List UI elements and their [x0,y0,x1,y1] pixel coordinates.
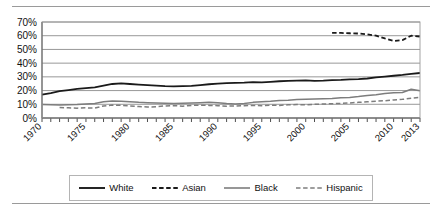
legend-item-asian: Asian [152,183,206,193]
legend-label: Hispanic [326,183,362,193]
svg-text:2010: 2010 [372,121,395,144]
series-line-white [42,73,420,95]
legend-label: Black [254,183,277,193]
svg-text:1990: 1990 [197,121,220,144]
legend-label: White [109,183,133,193]
legend-item-white: White [79,183,133,193]
svg-text:1995: 1995 [240,121,263,144]
legend-label: Asian [182,183,206,193]
svg-text:1975: 1975 [65,121,88,144]
x-axis-ticks [42,118,420,122]
chart-legend: WhiteAsianBlackHispanic [69,175,373,201]
svg-text:1970: 1970 [21,121,44,144]
svg-text:60%: 60% [17,30,37,41]
legend-swatch-white-icon [79,184,105,192]
legend-swatch-hispanic-icon [296,184,322,192]
y-axis-tick-labels: 0%10%20%30%40%50%60%70% [17,17,37,124]
svg-text:20%: 20% [17,85,37,96]
data-series-lines [42,33,420,108]
series-line-black [42,89,420,105]
svg-text:10%: 10% [17,99,37,110]
svg-text:40%: 40% [17,58,37,69]
legend-swatch-black-icon [224,184,250,192]
legend-item-black: Black [224,183,277,193]
bottom-divider-rule [12,203,430,204]
svg-text:2000: 2000 [284,121,307,144]
legend-item-hispanic: Hispanic [296,183,362,193]
line-chart-plot: 0%10%20%30%40%50%60%70% 1970197519801985… [0,10,442,200]
svg-text:1985: 1985 [153,121,176,144]
x-axis-tick-labels: 1970197519801985199019952000200520102013 [21,121,422,144]
svg-text:1980: 1980 [109,121,132,144]
svg-text:2005: 2005 [328,121,351,144]
svg-text:50%: 50% [17,44,37,55]
top-divider-rule [12,6,430,7]
series-line-hispanic [60,97,420,108]
svg-text:30%: 30% [17,71,37,82]
legend-swatch-asian-icon [152,184,178,192]
chart-figure: 0%10%20%30%40%50%60%70% 1970197519801985… [0,10,442,200]
svg-text:2013: 2013 [399,121,422,144]
svg-text:70%: 70% [17,17,37,28]
series-line-asian [332,33,420,41]
